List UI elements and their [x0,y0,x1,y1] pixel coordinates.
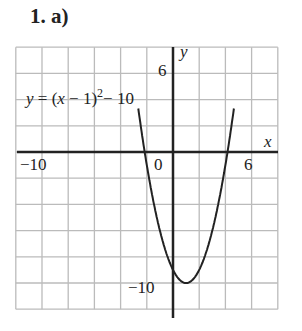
y-axis-label: y [180,42,188,62]
y-tick-6: 6 [158,61,167,81]
x-tick-6: 6 [244,155,253,175]
equation-label: y = (x − 1)2− 10 [26,86,134,109]
x-axis-label: x [264,132,272,152]
origin-label: 0 [154,155,163,175]
y-tick-neg10: −10 [128,278,155,298]
x-tick-neg10: −10 [20,155,47,175]
